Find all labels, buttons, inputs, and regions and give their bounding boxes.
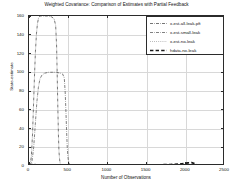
y-tick-label: 120 bbox=[17, 50, 24, 55]
legend-item[interactable]: x-est-all-leak-pft bbox=[149, 19, 221, 28]
y-tick bbox=[29, 34, 31, 35]
x-tick bbox=[146, 162, 147, 164]
y-tick bbox=[221, 72, 223, 73]
x-tick-label: 500 bbox=[64, 167, 71, 172]
y-tick-label: 0 bbox=[22, 163, 24, 168]
y-tick bbox=[221, 147, 223, 148]
y-axis-title: State-estimate bbox=[9, 47, 14, 107]
y-tick bbox=[29, 109, 31, 110]
x-tick bbox=[68, 162, 69, 164]
legend: x-est-all-leak-pftx-est-small-leakx-est-… bbox=[146, 16, 224, 55]
y-tick bbox=[221, 91, 223, 92]
x-tick bbox=[107, 16, 108, 18]
x-tick bbox=[68, 16, 69, 18]
y-tick bbox=[29, 91, 31, 92]
legend-label: x-est-all-leak-pft bbox=[170, 20, 201, 27]
y-tick-label: 40 bbox=[19, 125, 24, 130]
legend-line-swatch bbox=[149, 20, 168, 27]
y-tick-label: 20 bbox=[19, 144, 24, 149]
x-tick-label: 1500 bbox=[141, 167, 151, 172]
legend-line-swatch bbox=[149, 47, 168, 54]
legend-line-swatch bbox=[149, 38, 168, 45]
x-axis-title: Number of Observations bbox=[28, 175, 224, 180]
legend-label: x-est-small-leak bbox=[170, 29, 200, 36]
legend-label: x-est-no-leak bbox=[170, 38, 195, 45]
x-tick-label: 2000 bbox=[180, 167, 190, 172]
chart-title: Weighted Covariance: Comparison of Estim… bbox=[0, 2, 233, 7]
y-tick bbox=[29, 53, 31, 54]
y-tick bbox=[221, 128, 223, 129]
legend-item[interactable]: x-est-small-leak bbox=[149, 28, 221, 37]
y-tick-label: 60 bbox=[19, 106, 24, 111]
legend-item[interactable]: x-est-no-leak bbox=[149, 37, 221, 46]
x-tick bbox=[29, 162, 30, 164]
y-tick-label: 160 bbox=[17, 13, 24, 18]
figure: Weighted Covariance: Comparison of Estim… bbox=[0, 0, 233, 194]
x-tick bbox=[185, 162, 186, 164]
x-tick-label: 0 bbox=[27, 167, 29, 172]
legend-label: hdata-no-leak bbox=[170, 47, 196, 54]
x-tick bbox=[107, 162, 108, 164]
y-tick-label: 140 bbox=[17, 31, 24, 36]
x-tick-label: 1000 bbox=[102, 167, 112, 172]
x-tick-label: 2500 bbox=[219, 167, 229, 172]
legend-line-swatch bbox=[149, 29, 168, 36]
x-tick bbox=[29, 16, 30, 18]
y-tick bbox=[29, 128, 31, 129]
y-tick bbox=[29, 72, 31, 73]
y-tick bbox=[221, 109, 223, 110]
legend-item[interactable]: hdata-no-leak bbox=[149, 46, 221, 55]
x-tick-label-group: 05001000150020002500 bbox=[28, 167, 224, 175]
y-tick-label: 80 bbox=[19, 88, 24, 93]
series-line-3 bbox=[29, 163, 198, 165]
y-tick bbox=[29, 147, 31, 148]
y-tick-label: 100 bbox=[17, 69, 24, 74]
